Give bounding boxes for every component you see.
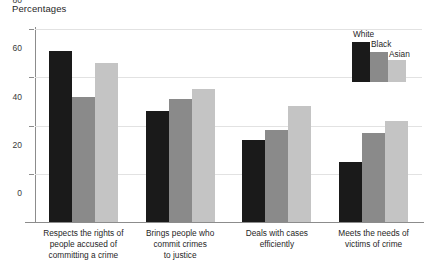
legend-label-black: Black xyxy=(371,39,391,49)
legend-label-white: White xyxy=(353,29,374,39)
legend-swatch-asian xyxy=(388,60,406,82)
bar-group xyxy=(242,29,311,222)
y-axis-tick-label: 20 xyxy=(13,140,22,150)
y-axis-tick-label: 60 xyxy=(13,43,22,53)
bar-asian xyxy=(95,63,118,222)
bar-black xyxy=(362,133,385,222)
legend-swatch-black xyxy=(370,52,388,82)
x-axis-category-label: Brings people who commit crimes to justi… xyxy=(132,228,229,262)
x-axis-category-label: Deals with cases efficiently xyxy=(229,228,326,250)
bar-group xyxy=(146,29,215,222)
bar-black xyxy=(72,97,95,222)
bar-asian xyxy=(192,89,215,222)
y-axis-tick-label: 40 xyxy=(13,92,22,102)
bar-group xyxy=(49,29,118,222)
x-axis-line xyxy=(25,222,424,223)
bar-asian xyxy=(385,121,408,222)
bar-white xyxy=(242,140,265,222)
y-axis-tick-mark xyxy=(29,222,34,223)
y-axis-tick-label: 80 xyxy=(13,0,22,5)
bar-white xyxy=(339,162,362,222)
y-axis-tick-mark xyxy=(29,174,34,175)
bar-chart: Percentages 020406080 Respects the right… xyxy=(0,0,427,276)
y-axis-tick-mark xyxy=(29,29,34,30)
legend-swatch-white xyxy=(352,42,370,82)
y-axis-tick-label: 0 xyxy=(17,188,22,198)
y-axis-tick-mark xyxy=(29,77,34,78)
bar-white xyxy=(146,111,169,222)
bar-asian xyxy=(288,106,311,222)
y-axis-tick-mark xyxy=(29,126,34,127)
bar-black xyxy=(265,130,288,222)
legend-label-asian: Asian xyxy=(389,49,410,59)
x-axis-category-label: Respects the rights of people accused of… xyxy=(35,228,132,262)
bar-black xyxy=(169,99,192,222)
chart-legend: White Black Asian xyxy=(352,30,427,82)
bar-white xyxy=(49,51,72,222)
x-axis-category-label: Meets the needs of victims of crime xyxy=(325,228,422,250)
